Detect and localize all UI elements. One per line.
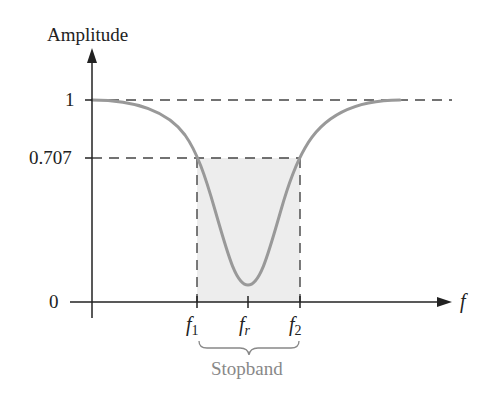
stopband-shade [197, 158, 300, 302]
f2-sub: 2 [295, 323, 302, 338]
x-tick-label-fr: fr [239, 313, 250, 339]
stopband-brace [199, 341, 299, 355]
x-axis-arrow-icon [437, 297, 452, 307]
f1-sub: 1 [192, 323, 199, 338]
x-tick-label-f2: f2 [289, 313, 302, 339]
y-axis-arrow-icon [87, 48, 97, 63]
y-tick-label-0707: 0.707 [29, 147, 72, 169]
y-tick-label-0: 0 [49, 291, 59, 313]
y-tick-label-1: 1 [65, 89, 75, 111]
y-axis-title: Amplitude [47, 24, 128, 46]
fr-sub: r [245, 323, 250, 338]
x-tick-label-f1: f1 [186, 313, 199, 339]
x-axis-title: f [460, 290, 466, 313]
stopband-label: Stopband [211, 358, 283, 380]
